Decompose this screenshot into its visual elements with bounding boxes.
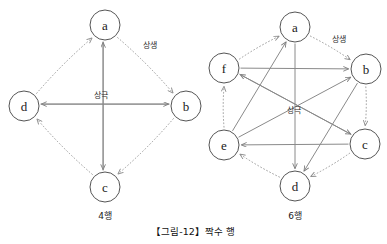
figure-container: abcd 상생상극 4행 abcdef 상생상극 6행 【그림-12】짝수 행 — [0, 0, 387, 244]
panel-4-row: abcd 상생상극 4행 — [9, 10, 201, 221]
node-e-label: e — [221, 138, 227, 153]
node-c-label: c — [362, 137, 368, 152]
panel-4-controlling-edges — [41, 42, 170, 171]
panel-6-caption: 6행 — [288, 210, 302, 221]
generative-edge-b-to-c — [118, 118, 174, 174]
node-d: d — [9, 91, 39, 121]
edge-label-sangsaeng: 상생 — [143, 40, 157, 50]
generative-edge-c-to-d — [37, 119, 93, 175]
panel-4-nodes: abcd — [9, 10, 201, 202]
panel-6-row: abcdef 상생상극 6행 — [209, 12, 381, 221]
node-b-label: b — [363, 62, 370, 77]
node-a: a — [280, 12, 310, 42]
figure-caption: 【그림-12】짝수 행 — [151, 226, 235, 237]
edge-label-sangsaeng: 상생 — [332, 34, 346, 44]
edge-label-sanggeuk: 상극 — [94, 90, 108, 100]
panel-4-generative-edges — [36, 37, 173, 174]
edge-label-sanggeuk: 상극 — [287, 105, 301, 115]
node-d: d — [280, 171, 310, 201]
panel-6-edge-labels: 상생상극 — [287, 34, 346, 115]
generative-edge-b-to-c — [365, 87, 366, 126]
node-c: c — [350, 129, 380, 159]
generative-edge-f-to-a — [239, 36, 279, 59]
node-b: b — [351, 54, 381, 84]
node-c-label: c — [102, 180, 108, 195]
node-d-label: d — [21, 99, 28, 114]
node-f: f — [209, 53, 239, 83]
generative-edge-e-to-f — [223, 87, 224, 128]
generative-edge-c-to-d — [311, 153, 350, 176]
node-f-label: f — [222, 61, 227, 76]
panel-4-caption: 4행 — [98, 210, 112, 221]
controlling-edge-e-to-a — [233, 42, 286, 131]
node-e: e — [209, 130, 239, 160]
node-a-label: a — [292, 20, 298, 35]
node-c: c — [90, 172, 120, 202]
node-b: b — [171, 91, 201, 121]
node-d-label: d — [292, 179, 299, 194]
node-b-label: b — [183, 99, 190, 114]
figure-diagram-canvas: abcd 상생상극 4행 abcdef 상생상극 6행 【그림-12】짝수 행 — [0, 0, 387, 244]
node-a: a — [90, 10, 120, 40]
node-a-label: a — [102, 18, 108, 33]
controlling-edge-b-to-d — [304, 83, 357, 171]
generative-edge-d-to-a — [36, 38, 92, 94]
generative-edge-d-to-e — [240, 154, 280, 177]
